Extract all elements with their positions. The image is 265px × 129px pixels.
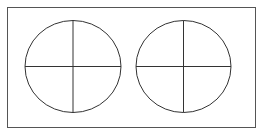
right-circle-group xyxy=(136,21,231,113)
left-circle-group xyxy=(25,21,121,113)
diagram-canvas xyxy=(0,0,265,129)
frame-rectangle xyxy=(8,8,256,128)
